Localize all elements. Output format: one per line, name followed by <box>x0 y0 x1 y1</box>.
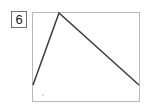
plot-area <box>32 12 140 102</box>
data-series-line <box>33 13 139 85</box>
chart-panel: 6 <box>0 0 150 111</box>
panel-number-badge: 6 <box>11 11 27 28</box>
faint-point-marker <box>42 94 44 96</box>
